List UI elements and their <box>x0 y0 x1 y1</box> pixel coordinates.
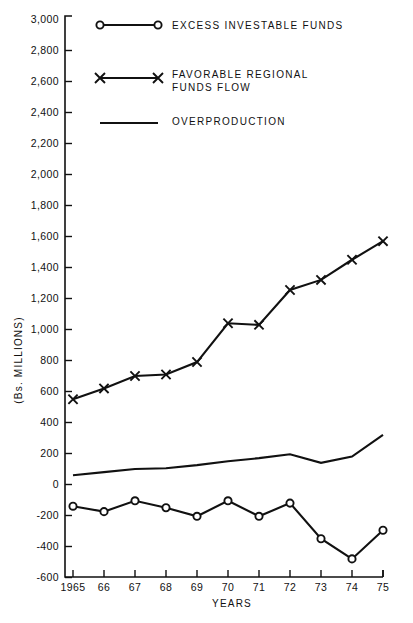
legend-label: OVERPRODUCTION <box>172 116 286 127</box>
x-tick-label: 1965 <box>61 581 86 593</box>
x-tick-label: 72 <box>284 581 296 593</box>
series-line <box>73 501 383 559</box>
data-point-marker <box>286 500 293 507</box>
series-3 <box>73 435 383 475</box>
x-tick-label: 69 <box>191 581 203 593</box>
data-point-marker <box>162 504 169 511</box>
y-tick-label: 200 <box>40 447 59 459</box>
legend-entry-2: FAVORABLE REGIONALFUNDS FLOW <box>95 69 309 93</box>
data-point-marker <box>131 497 138 504</box>
y-tick-label: 2,800 <box>31 44 59 56</box>
legend-entry-1: EXCESS INVESTABLE FUNDS <box>96 20 343 31</box>
data-series <box>68 237 387 563</box>
legend-marker-circle <box>154 21 161 28</box>
x-tick-label: 71 <box>253 581 265 593</box>
x-axis-title: YEARS <box>212 598 252 609</box>
legend-label: EXCESS INVESTABLE FUNDS <box>172 20 343 31</box>
y-tick-label: 1,400 <box>31 261 59 273</box>
y-tick-label: 2,600 <box>31 75 59 87</box>
y-tick-label: 3,000 <box>31 13 59 25</box>
x-tick-label: 67 <box>129 581 141 593</box>
y-axis-tick-labels: 3,0002,8002,6002,4002,2002,0001,8001,600… <box>31 13 59 583</box>
chart-svg: 3,0002,8002,6002,4002,2002,0001,8001,600… <box>0 0 413 623</box>
chart-legend: EXCESS INVESTABLE FUNDSFAVORABLE REGIONA… <box>95 20 343 127</box>
x-axis-tick-labels: 196566676869707172737475 <box>61 581 390 593</box>
y-tick-label: 2,200 <box>31 137 59 149</box>
y-tick-label: 1,600 <box>31 230 59 242</box>
data-point-marker <box>378 237 387 246</box>
x-tick-label: 70 <box>222 581 234 593</box>
y-tick-label: 1,000 <box>31 323 59 335</box>
data-point-marker <box>193 513 200 520</box>
y-tick-label: 2,400 <box>31 106 59 118</box>
data-point-marker <box>317 535 324 542</box>
data-point-marker <box>255 513 262 520</box>
y-tick-label: -400 <box>36 540 59 552</box>
x-tick-label: 66 <box>98 581 110 593</box>
series-line <box>73 435 383 475</box>
data-point-marker <box>99 384 108 393</box>
x-tick-label: 68 <box>160 581 172 593</box>
y-tick-label: -200 <box>36 509 59 521</box>
data-point-marker <box>100 508 107 515</box>
series-line <box>73 241 383 399</box>
legend-label: FAVORABLE REGIONAL <box>172 69 309 80</box>
y-tick-label: 1,200 <box>31 292 59 304</box>
legend-label: FUNDS FLOW <box>172 82 251 93</box>
y-tick-label: 400 <box>40 416 59 428</box>
y-axis-ticks <box>65 51 72 578</box>
legend-marker-circle <box>96 21 103 28</box>
data-point-marker <box>192 357 201 366</box>
y-tick-label: 0 <box>53 478 59 490</box>
data-point-marker <box>69 503 76 510</box>
data-point-marker <box>348 555 355 562</box>
data-point-marker <box>68 395 77 404</box>
legend-entry-3: OVERPRODUCTION <box>100 116 286 127</box>
y-tick-label: 600 <box>40 385 59 397</box>
y-axis-title: (Bs. MILLIONS) <box>13 316 24 403</box>
y-tick-label: -600 <box>36 571 59 583</box>
data-point-marker <box>347 255 356 264</box>
series-1 <box>69 497 386 562</box>
x-tick-label: 75 <box>377 581 389 593</box>
y-tick-label: 2,000 <box>31 168 59 180</box>
x-tick-label: 74 <box>346 581 358 593</box>
y-tick-label: 1,800 <box>31 199 59 211</box>
series-2 <box>68 237 387 404</box>
y-tick-label: 800 <box>40 354 59 366</box>
data-point-marker <box>224 497 231 504</box>
axes <box>65 16 383 577</box>
x-tick-label: 73 <box>315 581 327 593</box>
data-point-marker <box>379 527 386 534</box>
x-axis-ticks <box>73 570 383 577</box>
chart-figure: 3,0002,8002,6002,4002,2002,0001,8001,600… <box>0 0 413 623</box>
